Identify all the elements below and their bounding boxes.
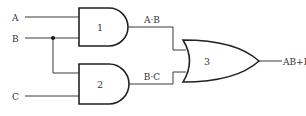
logic-circuit-diagram: A B C 1 2 A·B B·C 3 AB+BC=Y: [0, 0, 306, 116]
output-label-y: AB+BC=Y: [282, 57, 306, 67]
input-c-label: C: [12, 92, 19, 102]
input-a: A: [11, 13, 79, 23]
wire-ab: [128, 27, 186, 50]
or-gate-3: 3: [183, 40, 259, 82]
input-b: B: [12, 34, 79, 74]
gate-1-label: 1: [97, 22, 103, 33]
output-label-ab: A·B: [143, 15, 160, 25]
input-a-label: A: [11, 13, 19, 23]
input-c: C: [12, 92, 79, 102]
and-gate-icon: [79, 8, 128, 46]
and-gate-2: 2: [79, 64, 129, 104]
gate-3-label: 3: [204, 56, 210, 67]
input-b-label: B: [12, 34, 19, 44]
or-gate-icon: [183, 40, 259, 82]
wire-b-branch: [53, 38, 79, 73]
gate-2-label: 2: [97, 79, 103, 90]
and-gate-icon: [79, 64, 129, 104]
and-gate-1: 1: [79, 8, 128, 46]
output-label-bc: B·C: [144, 72, 160, 82]
